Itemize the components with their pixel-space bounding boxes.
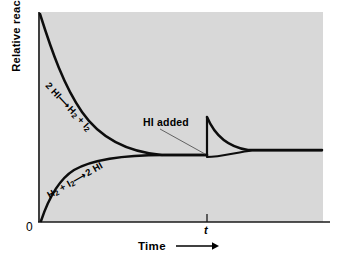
time-arrow-head — [212, 242, 219, 250]
curve-forward-post-disturbance — [207, 117, 322, 150]
chart-canvas — [0, 0, 339, 261]
x-tick-label-t: t — [204, 224, 208, 236]
curve-forward-pre-disturbance — [40, 14, 207, 155]
hi-added-leader-line — [160, 129, 205, 154]
figure-container: Relative reaction rate Time 0 t HI added… — [0, 0, 339, 261]
x-axis-title: Time — [138, 240, 166, 252]
y-axis-title: Relative reaction rate — [10, 0, 26, 118]
origin-label: 0 — [26, 220, 33, 234]
hi-added-annotation: HI added — [143, 116, 189, 128]
curve-reverse-post-disturbance — [207, 151, 322, 158]
